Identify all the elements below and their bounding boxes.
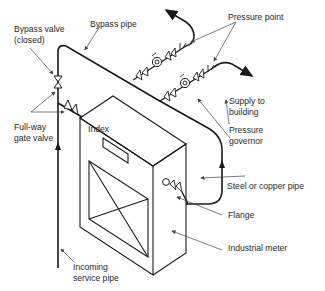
meter-installation-diagram: Bypass valve (closed) Bypass pipe Pressu… (0, 0, 325, 291)
label-full-way-gate-valve: Full-way gate valve (14, 122, 53, 143)
label-bypass-valve: Bypass valve (closed) (14, 24, 65, 45)
bypass-pipe (58, 46, 225, 204)
leader-lines (30, 22, 245, 262)
label-flange: Flange (228, 210, 254, 221)
label-index: Index (88, 124, 109, 135)
label-industrial-meter: Industrial meter (228, 243, 287, 254)
label-supply-to-building: Supply to building (229, 96, 265, 117)
bypass-valve-icon (54, 76, 62, 88)
label-steel-or-copper-pipe: Steel or copper pipe (227, 181, 304, 192)
label-pressure-point: Pressure point (228, 12, 283, 23)
label-incoming-service-pipe: Incoming service pipe (73, 262, 119, 283)
upper-governor-run (133, 10, 194, 80)
meter-inlet-branch (58, 100, 82, 117)
label-pressure-governor: Pressure governor (229, 125, 263, 146)
label-bypass-pipe: Bypass pipe (90, 19, 137, 30)
industrial-meter (80, 96, 186, 275)
